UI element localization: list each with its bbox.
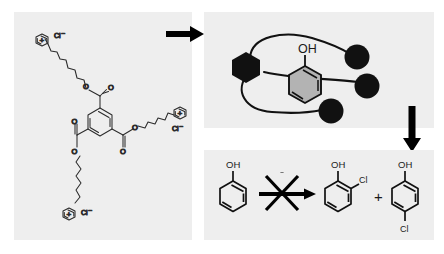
tripodal-structure-drawing: O O + Cl – O O <box>14 12 192 240</box>
ester-oxygen-label-4: O <box>132 123 138 132</box>
product1-cl-label: Cl <box>359 175 368 185</box>
reactant-oh-label: OH <box>226 159 240 170</box>
ester-oxygen-label-1: O <box>108 83 114 92</box>
arrow-left-to-schematic <box>166 24 206 44</box>
figure-canvas: O O + Cl – O O <box>0 0 444 254</box>
blocked-reaction-drawing: OH OH Cl <box>204 150 434 240</box>
pyridinium-plus-charge-1: + <box>39 36 44 45</box>
chloride-label-2: Cl <box>172 125 179 132</box>
product2-cl-label: Cl <box>400 224 409 234</box>
reactant-phenol: OH <box>220 159 246 212</box>
chloride-label-1: Cl <box>54 32 61 39</box>
host-head-group-1 <box>345 45 370 70</box>
ester-oxygen-label-6: O <box>72 147 78 156</box>
down-arrow-icon <box>400 106 424 154</box>
product-4-chlorophenol: OH Cl <box>392 159 418 234</box>
ester-oxygen-label-5: O <box>72 117 78 126</box>
product-plus-sign: + <box>374 188 383 205</box>
host-core-hexagon <box>232 52 260 83</box>
chloride-superscript-2: – <box>180 123 184 129</box>
ester-oxygen-label-3: O <box>120 147 126 156</box>
product2-oh-label: OH <box>398 159 412 170</box>
panel-tripodal-receptor-structure: O O + Cl – O O <box>14 12 192 240</box>
chloride-label-3: Cl <box>81 209 88 216</box>
host-head-group-3 <box>319 99 344 124</box>
guest-phenol: OH <box>289 42 321 103</box>
product1-oh-label: OH <box>331 159 345 170</box>
pyridinium-plus-charge-2: + <box>177 109 182 118</box>
blocked-reaction-arrow <box>259 172 316 210</box>
panel-blocked-chlorination-reaction: OH OH Cl <box>204 150 434 240</box>
product-2-chlorophenol: OH Cl <box>325 159 368 212</box>
chloride-superscript-3: – <box>89 207 93 213</box>
host-head-group-2 <box>355 74 380 99</box>
right-arrow-icon <box>166 24 206 44</box>
arrow-schematic-to-reaction <box>400 106 424 154</box>
pyridinium-plus-charge-3: + <box>66 210 71 219</box>
chloride-superscript-1: – <box>62 30 66 36</box>
guest-oh-label: OH <box>298 42 317 56</box>
